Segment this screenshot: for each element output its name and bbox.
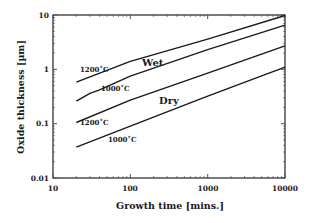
curve-label-wet-1000: 1000˚C — [101, 84, 130, 93]
y-axis-title: Oxide thickness [µm] — [15, 40, 26, 154]
x-tick-label-1000: 1000 — [198, 184, 219, 193]
x-tick-label-10000: 10000 — [272, 184, 298, 193]
curves — [76, 16, 285, 148]
y-tick-label-0.01: 0.01 — [31, 174, 49, 183]
x-axis-title: Growth time [mins.] — [116, 200, 224, 211]
curve-label-dry-1200: 1200˚C — [80, 118, 109, 127]
x-tick-label-10: 10 — [48, 184, 58, 193]
oxide-thickness-chart: 10 1 0.1 0.01 10 100 1000 10000 Growth t… — [0, 0, 312, 223]
y-tick-label-0.1: 0.1 — [36, 119, 49, 128]
curve-label-dry-1000: 1000˚C — [108, 135, 137, 144]
y-tick-label-1: 1 — [44, 65, 49, 74]
x-tick-label-100: 100 — [122, 184, 138, 193]
wet-annotation: Wet — [141, 57, 164, 68]
y-tick-label-10: 10 — [39, 11, 49, 20]
dry-annotation: Dry — [159, 95, 180, 106]
curve-label-wet-1200: 1200˚C — [80, 65, 109, 74]
